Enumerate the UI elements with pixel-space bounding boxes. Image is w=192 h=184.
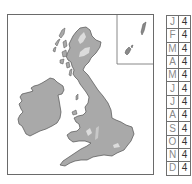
table-row: J4 (167, 95, 191, 108)
shetland-icon (141, 22, 146, 35)
anglesey-icon (72, 110, 77, 115)
value-cell: 4 (179, 122, 191, 135)
table-row: S4 (167, 122, 191, 135)
month-cell: D (167, 162, 179, 175)
ireland-shape (18, 78, 64, 136)
great-britain-shape (60, 27, 134, 166)
value-cell: 4 (179, 69, 191, 82)
value-cell: 4 (179, 82, 191, 95)
month-cell: M (167, 69, 179, 82)
table-row: M4 (167, 42, 191, 55)
month-cell: A (167, 109, 179, 122)
value-cell: 4 (179, 55, 191, 68)
value-cell: 4 (179, 29, 191, 42)
table-row: D4 (167, 162, 191, 175)
table-row: A4 (167, 109, 191, 122)
isle-of-man-icon (76, 94, 78, 100)
orkney-icon (125, 45, 133, 55)
table-row: J4 (167, 82, 191, 95)
month-cell: N (167, 148, 179, 161)
value-cell: 4 (179, 16, 191, 29)
table-row: M4 (167, 69, 191, 82)
month-cell: O (167, 135, 179, 148)
month-cell: J (167, 82, 179, 95)
table-row: O4 (167, 135, 191, 148)
month-cell: J (167, 16, 179, 29)
month-cell: A (167, 55, 179, 68)
value-cell: 4 (179, 42, 191, 55)
month-cell: F (167, 29, 179, 42)
month-cell: M (167, 42, 179, 55)
month-cell: S (167, 122, 179, 135)
table-row: N4 (167, 148, 191, 161)
value-cell: 4 (179, 95, 191, 108)
western-isles-icon (53, 28, 65, 52)
table-row: J4 (167, 16, 191, 29)
table-row: F4 (167, 29, 191, 42)
table-row: A4 (167, 55, 191, 68)
value-cell: 4 (179, 135, 191, 148)
british-isles-map (0, 0, 192, 184)
month-cell: J (167, 95, 179, 108)
value-cell: 4 (179, 148, 191, 161)
value-cell: 4 (179, 162, 191, 175)
inset-box (117, 14, 154, 64)
monthly-value-table: J4 F4 M4 A4 M4 J4 J4 A4 S4 O4 N4 D4 (166, 15, 191, 176)
value-cell: 4 (179, 109, 191, 122)
